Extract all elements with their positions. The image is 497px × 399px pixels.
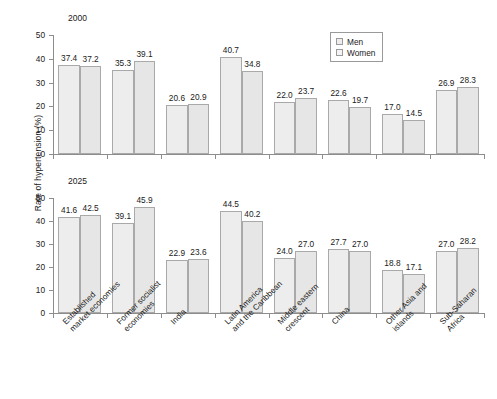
y-axis-tick bbox=[49, 244, 53, 245]
bar-women bbox=[349, 251, 371, 313]
x-axis-tick bbox=[269, 314, 270, 318]
y-axis-tick bbox=[49, 267, 53, 268]
x-axis-tick bbox=[484, 314, 485, 318]
y-axis-tick-label: 0 bbox=[29, 309, 45, 317]
bar-value-label: 23.6 bbox=[184, 248, 214, 256]
y-axis-line bbox=[53, 198, 54, 314]
plot-area-2025: 0102030405041.642.539.145.922.923.644.54… bbox=[0, 0, 497, 399]
y-axis-tick-label: 30 bbox=[29, 240, 45, 248]
bar-value-label: 42.5 bbox=[76, 204, 106, 212]
x-axis-tick bbox=[107, 314, 108, 318]
bar-men bbox=[328, 249, 350, 313]
x-axis-tick bbox=[322, 314, 323, 318]
x-axis-tick bbox=[215, 314, 216, 318]
bar-men bbox=[220, 211, 242, 313]
bar-men bbox=[58, 217, 80, 313]
x-axis-tick bbox=[53, 314, 54, 318]
panel-2025: 2025 0102030405041.642.539.145.922.923.6… bbox=[0, 0, 497, 399]
bar-value-label: 40.2 bbox=[238, 210, 268, 218]
bar-value-label: 44.5 bbox=[216, 200, 246, 208]
bar-value-label: 45.9 bbox=[130, 196, 160, 204]
x-axis-tick bbox=[376, 314, 377, 318]
y-axis-tick bbox=[49, 221, 53, 222]
bar-value-label: 27.0 bbox=[291, 240, 321, 248]
y-axis-tick bbox=[49, 290, 53, 291]
bar-men bbox=[112, 223, 134, 313]
bar-women bbox=[188, 259, 210, 313]
chart-figure: Rate of hypertension (%) 2000 0102030405… bbox=[0, 0, 497, 399]
x-axis-tick bbox=[430, 314, 431, 318]
y-axis-tick-label: 50 bbox=[29, 194, 45, 202]
y-axis-tick-label: 20 bbox=[29, 263, 45, 271]
bar-men bbox=[166, 260, 188, 313]
y-axis-tick-label: 10 bbox=[29, 286, 45, 294]
bar-value-label: 27.0 bbox=[345, 240, 375, 248]
y-axis-tick bbox=[49, 198, 53, 199]
bar-value-label: 17.1 bbox=[399, 263, 429, 271]
x-axis-tick bbox=[161, 314, 162, 318]
y-axis-tick-label: 40 bbox=[29, 217, 45, 225]
bar-value-label: 28.2 bbox=[453, 237, 483, 245]
